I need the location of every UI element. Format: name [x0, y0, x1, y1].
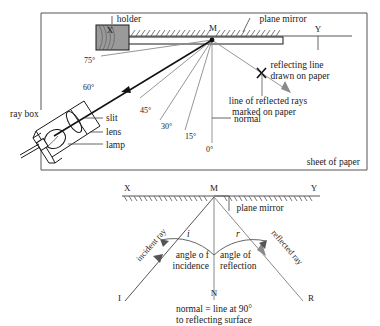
point-m-dot — [210, 38, 215, 43]
point-m-bottom: M — [210, 183, 218, 193]
reflected-rays-label-2: marked on paper — [232, 107, 297, 117]
angle-of-reflection-line2: reflection — [220, 261, 257, 271]
point-x-bottom: X — [124, 183, 131, 193]
normal-caption-line1: normal = line at 90° — [176, 304, 252, 314]
angle-of-incidence-line2: incidence — [173, 261, 209, 271]
reflected-rays-label-1: line of reflected rays — [229, 96, 308, 106]
point-r-bottom: R — [308, 293, 314, 303]
point-i-bottom: I — [118, 293, 121, 303]
angle-label-75: 75° — [84, 56, 95, 65]
top-diagram — [20, 13, 367, 170]
reflecting-line-label-1: reflecting line — [270, 60, 323, 70]
sheet-of-paper-label: sheet of paper — [307, 157, 361, 167]
right-angle-marker — [214, 196, 229, 211]
plane-mirror-label-top: plane mirror — [259, 14, 307, 24]
angle-of-reflection-line1: angle of — [220, 250, 252, 260]
plane-mirror-leader — [243, 18, 250, 32]
point-m-top: M — [209, 23, 217, 33]
angle-label-15: 15° — [185, 132, 196, 141]
mirror-hatching — [131, 30, 280, 36]
angle-i-symbol: i — [187, 229, 190, 239]
physics-reflection-diagram: holder plane mirror X M Y 75° 60° 45° 30… — [0, 0, 380, 326]
plane-mirror-label-bottom: plane mirror — [236, 203, 284, 213]
normal-caption-line2: to reflecting surface — [176, 315, 252, 325]
angle-label-45: 45° — [140, 106, 151, 115]
figure-root: holder plane mirror X M Y 75° 60° 45° 30… — [0, 0, 380, 326]
lens-label: lens — [106, 127, 122, 137]
point-x-top: X — [107, 25, 114, 35]
reflecting-line-label-2: drawn on paper — [270, 71, 330, 81]
lens-shape — [63, 109, 87, 135]
angle-of-incidence-line1: angle o f — [176, 250, 210, 260]
angle-label-0: 0° — [206, 145, 213, 154]
angle-r-symbol: r — [236, 229, 240, 239]
incident-ray-bottom — [125, 197, 214, 301]
mirror-hatching-bottom — [124, 196, 312, 201]
reflected-ray-label: reflected ray — [269, 228, 305, 267]
angle-label-30: 30° — [161, 122, 172, 131]
angle-label-60: 60° — [83, 83, 94, 92]
lamp-label: lamp — [106, 140, 125, 150]
point-y-bottom: Y — [311, 183, 318, 193]
point-n-bottom: N — [211, 288, 218, 298]
slit-label: slit — [106, 113, 118, 123]
ray-box-label: ray box — [10, 109, 39, 119]
holder-label: holder — [117, 14, 142, 24]
ray-30 — [160, 40, 212, 120]
point-y-top: Y — [315, 24, 322, 34]
incident-ray-60 — [54, 40, 212, 136]
x-mark-on-ray — [257, 68, 266, 78]
